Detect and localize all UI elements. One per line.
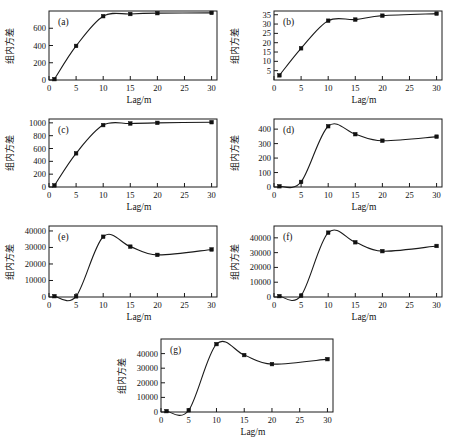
data-point-marker bbox=[353, 18, 357, 22]
data-point-marker bbox=[187, 408, 191, 412]
y-tick-label: 10 bbox=[263, 56, 272, 66]
panel-label: (g) bbox=[170, 345, 181, 356]
data-point-marker bbox=[156, 11, 160, 15]
y-axis-title: 组内方差 bbox=[229, 28, 240, 64]
chart-panel-f: 051015202530010000200003000040000Lag/m组内… bbox=[225, 217, 451, 327]
x-tick-label: 25 bbox=[405, 83, 414, 93]
x-tick-label: 25 bbox=[405, 190, 414, 200]
data-point-marker bbox=[278, 294, 282, 298]
x-tick-label: 25 bbox=[180, 300, 189, 310]
data-point-marker bbox=[299, 46, 303, 50]
plot-area: 0510152025300100200300400Lag/m组内方差(d) bbox=[225, 110, 451, 217]
y-axis-title: 组内方差 bbox=[4, 244, 15, 280]
y-axis-title: 组内方差 bbox=[4, 135, 15, 171]
y-tick-label: 30000 bbox=[25, 242, 46, 252]
x-tick-label: 0 bbox=[159, 415, 163, 425]
plot-frame bbox=[274, 11, 442, 80]
x-tick-label: 20 bbox=[153, 83, 162, 93]
x-axis-title: Lag/m bbox=[352, 202, 377, 212]
x-tick-label: 5 bbox=[74, 83, 78, 93]
y-tick-label: 10000 bbox=[250, 277, 271, 287]
panel-label: (a) bbox=[58, 17, 69, 28]
x-tick-label: 0 bbox=[47, 190, 51, 200]
x-axis-title: Lag/m bbox=[127, 312, 152, 322]
y-tick-label: 0 bbox=[42, 292, 46, 302]
y-tick-label: 0 bbox=[267, 292, 271, 302]
x-tick-label: 15 bbox=[351, 190, 360, 200]
data-point-marker bbox=[165, 409, 169, 413]
x-tick-label: 0 bbox=[272, 83, 276, 93]
y-tick-label: 800 bbox=[33, 131, 46, 141]
data-curve bbox=[279, 230, 436, 301]
y-tick-label: 200 bbox=[33, 58, 46, 68]
y-tick-label: 0 bbox=[42, 182, 46, 192]
data-curve bbox=[167, 341, 328, 415]
y-tick-label: 15 bbox=[263, 47, 272, 57]
x-tick-label: 5 bbox=[74, 190, 78, 200]
plot-area: 051015202530010000200003000040000Lag/m组内… bbox=[0, 217, 226, 327]
data-point-marker bbox=[326, 19, 330, 23]
data-curve bbox=[54, 234, 211, 300]
y-tick-label: 0 bbox=[154, 407, 158, 417]
panel-label: (b) bbox=[283, 17, 294, 28]
x-tick-label: 25 bbox=[295, 415, 304, 425]
y-tick-label: 600 bbox=[33, 23, 46, 33]
x-tick-label: 15 bbox=[126, 83, 135, 93]
x-tick-label: 20 bbox=[153, 300, 162, 310]
x-tick-label: 30 bbox=[207, 83, 216, 93]
x-axis-title: Lag/m bbox=[352, 95, 377, 105]
data-point-marker bbox=[215, 342, 219, 346]
chart-panel-a: 0510152025300200400600Lag/m组内方差(a) bbox=[0, 2, 226, 110]
y-tick-label: 600 bbox=[33, 144, 46, 154]
x-tick-label: 0 bbox=[272, 300, 276, 310]
y-tick-label: 200 bbox=[258, 153, 271, 163]
x-tick-label: 30 bbox=[432, 83, 441, 93]
x-tick-label: 30 bbox=[323, 415, 332, 425]
data-point-marker bbox=[74, 295, 78, 299]
y-tick-label: 30 bbox=[263, 19, 272, 29]
y-axis-title: 组内方差 bbox=[229, 244, 240, 280]
y-tick-label: 300 bbox=[258, 139, 271, 149]
data-point-marker bbox=[210, 120, 214, 124]
x-tick-label: 15 bbox=[126, 300, 135, 310]
x-tick-label: 0 bbox=[47, 300, 51, 310]
y-tick-label: 400 bbox=[33, 156, 46, 166]
x-tick-label: 15 bbox=[351, 83, 360, 93]
data-point-marker bbox=[128, 245, 132, 249]
x-tick-label: 25 bbox=[180, 83, 189, 93]
data-curve bbox=[279, 124, 436, 188]
data-point-marker bbox=[435, 244, 439, 248]
x-tick-label: 30 bbox=[207, 190, 216, 200]
x-tick-label: 20 bbox=[153, 190, 162, 200]
x-tick-label: 15 bbox=[240, 415, 249, 425]
y-tick-label: 200 bbox=[33, 169, 46, 179]
data-point-marker bbox=[156, 253, 160, 257]
y-tick-label: 20000 bbox=[137, 378, 158, 388]
x-tick-label: 25 bbox=[405, 300, 414, 310]
y-tick-label: 35 bbox=[263, 10, 272, 20]
panel-label: (c) bbox=[58, 125, 69, 136]
data-point-marker bbox=[53, 184, 57, 188]
data-point-marker bbox=[53, 294, 57, 298]
x-tick-label: 5 bbox=[299, 190, 303, 200]
data-curve bbox=[279, 14, 436, 76]
x-tick-label: 5 bbox=[299, 300, 303, 310]
x-tick-label: 5 bbox=[299, 83, 303, 93]
panel-label: (f) bbox=[283, 232, 293, 243]
x-tick-label: 10 bbox=[99, 83, 108, 93]
chart-panel-b: 0510152025305101520253035Lag/m组内方差(b) bbox=[225, 2, 451, 110]
data-point-marker bbox=[53, 77, 57, 81]
x-tick-label: 15 bbox=[351, 300, 360, 310]
x-tick-label: 0 bbox=[47, 83, 51, 93]
x-tick-label: 10 bbox=[99, 300, 108, 310]
y-tick-label: 400 bbox=[33, 41, 46, 51]
y-tick-label: 1000 bbox=[29, 118, 46, 128]
plot-area: 05101520253002004006008001000Lag/m组内方差(c… bbox=[0, 110, 226, 217]
data-point-marker bbox=[326, 357, 330, 361]
plot-area: 0510152025300200400600Lag/m组内方差(a) bbox=[0, 2, 226, 110]
x-axis-title: Lag/m bbox=[127, 202, 152, 212]
x-tick-label: 20 bbox=[378, 190, 387, 200]
plot-area: 051015202530010000200003000040000Lag/m组内… bbox=[225, 217, 451, 327]
data-point-marker bbox=[128, 12, 132, 16]
y-tick-label: 30000 bbox=[137, 363, 158, 373]
